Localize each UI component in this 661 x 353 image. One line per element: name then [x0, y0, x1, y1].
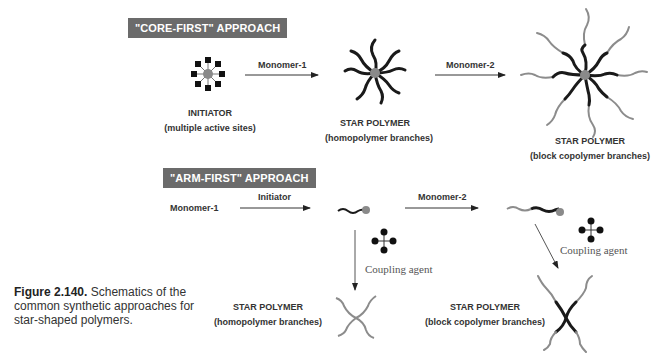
star1-label: STAR POLYMER (homopolymer branches) — [325, 116, 425, 146]
arm-first-banner: "ARM-FIRST" APPROACH — [163, 168, 316, 188]
core-first-banner: "CORE-FIRST" APPROACH — [128, 18, 287, 38]
block-copolymer-arm-icon — [507, 207, 564, 216]
star-right-label: STAR POLYMER (block copolymer branches) — [425, 300, 545, 330]
arrow-label-monomer-1: Monomer-1 — [258, 60, 307, 70]
polymer-arm-icon — [338, 206, 370, 214]
coupling-agent-left-label: Coupling agent — [365, 263, 433, 275]
initiator-label: INITIATOR (multiple active sites) — [160, 106, 260, 136]
coupling-agent-icon — [579, 218, 604, 243]
star-polymer-block-copolymer-icon — [521, 9, 647, 137]
coupling-agent-icon — [372, 229, 397, 254]
arm-start-label: Monomer-1 — [170, 203, 219, 213]
arrow-label-initiator: Initiator — [258, 192, 291, 202]
initiator-icon — [191, 57, 225, 91]
star-left-label: STAR POLYMER (homopolymer branches) — [213, 300, 323, 330]
star2-label: STAR POLYMER (block copolymer branches) — [530, 134, 650, 164]
arrow-label-monomer-2-arm: Monomer-2 — [418, 192, 467, 202]
four-arm-star-homopolymer-icon — [336, 296, 376, 338]
coupling-agent-right-label: Coupling agent — [560, 244, 628, 256]
star-polymer-homopolymer-icon — [345, 40, 405, 103]
figure-caption: Figure 2.140. Schematics of the common s… — [14, 285, 199, 327]
four-arm-star-block-copolymer-icon — [538, 276, 592, 352]
arrow-label-monomer-2: Monomer-2 — [446, 60, 495, 70]
